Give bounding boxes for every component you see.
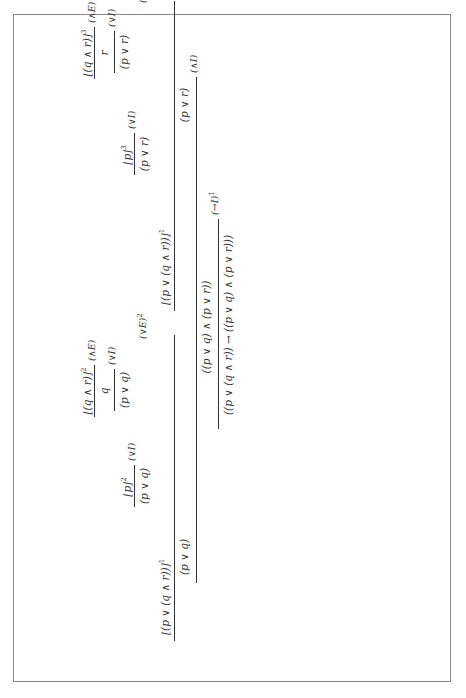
left-case1-conclusion: (p ∨ q)	[138, 468, 150, 504]
left-case1-rule: (∨I)	[126, 443, 138, 461]
left-case1-assumption: ⌊p⌋2	[118, 477, 133, 496]
right-major-premise: ⌊(p ∨ (q ∧ r))⌋1	[156, 229, 171, 305]
imp-intro-rule-line	[218, 219, 219, 429]
and-intro-rule-line	[196, 77, 197, 583]
right-case1-rule: (∨I)	[126, 111, 138, 129]
and-intro-rule: (∧I)	[188, 55, 200, 73]
left-conclusion: (p ∨ q)	[178, 539, 190, 575]
left-case2-step: q	[98, 388, 110, 395]
right-case1-conclusion: (p ∨ r)	[138, 137, 150, 171]
left-case1-rule-line	[134, 465, 135, 507]
right-case2-rule: (∨I)	[106, 9, 118, 27]
right-case2-step-rule: (∧E)	[86, 2, 98, 23]
right-case2-assumption: ⌊(q ∧ r)⌋3	[78, 30, 93, 77]
proof-tree: ⌊(p ∨ (q ∧ r))⌋1 ⌊p⌋2 (∨I) (p ∨ q) ⌊(q ∧…	[144, 85, 344, 645]
left-or-elim-rule: (∨E)2	[134, 313, 149, 339]
right-case2-rule-line	[114, 31, 115, 73]
right-case2-step-rule-line	[94, 27, 95, 79]
right-case1-rule-line	[134, 133, 135, 175]
right-conclusion: (p ∨ r)	[178, 88, 190, 122]
right-or-elim-rule-line	[174, 1, 175, 311]
conjunction-conclusion: ((p ∨ q) ∧ (p ∨ r))	[200, 281, 212, 374]
right-case1-assumption: ⌊p⌋3	[118, 145, 133, 164]
left-case2-rule: (∨I)	[106, 347, 118, 365]
final-conclusion: ((p ∨ (q ∧ r)) → ((p ∨ q) ∧ (p ∨ r)))	[222, 235, 234, 415]
right-or-elim-rule: (∨E)3	[134, 0, 149, 3]
left-case2-assumption: ⌊(q ∧ r)⌋2	[78, 368, 93, 415]
left-case2-step-rule: (∧E)	[86, 340, 98, 361]
right-case2-conclusion: (p ∨ r)	[118, 35, 130, 69]
left-case2-step-rule-line	[94, 365, 95, 417]
imp-intro-rule: (→I)1	[206, 191, 221, 215]
right-case2-step: r	[98, 50, 110, 55]
left-or-elim-rule-line	[174, 335, 175, 641]
left-case2-conclusion: (p ∨ q)	[118, 372, 130, 408]
left-case2-rule-line	[114, 369, 115, 411]
left-major-premise: ⌊(p ∨ (q ∧ r))⌋1	[156, 559, 171, 635]
